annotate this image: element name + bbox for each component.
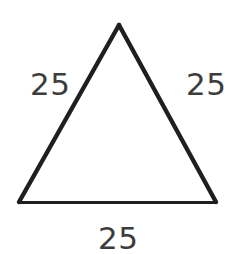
triangle-shape <box>0 0 234 254</box>
base-side-length-label: 25 <box>98 223 138 254</box>
triangle-left-side <box>19 25 119 202</box>
left-side-length-label: 25 <box>30 69 70 100</box>
right-side-length-label: 25 <box>186 69 226 100</box>
triangle-figure: 25 25 25 <box>0 0 234 254</box>
triangle-right-side <box>119 25 216 202</box>
